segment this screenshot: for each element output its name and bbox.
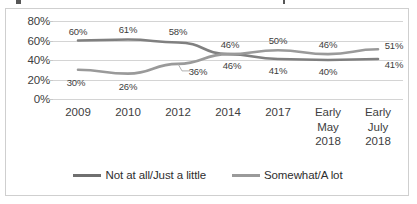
y-axis-label: 80% (28, 15, 50, 27)
data-point-label: 30% (67, 76, 85, 87)
legend-item[interactable]: Somewhat/A lot (232, 169, 343, 181)
data-point-label: 41% (269, 65, 287, 76)
y-axis-label: 40% (28, 54, 50, 66)
data-point-label: 26% (119, 80, 137, 91)
legend-label: Not at all/Just a little (105, 169, 206, 181)
data-point-label: 58% (169, 26, 187, 37)
x-axis-label-line: May (301, 120, 355, 135)
data-point-label: 51% (385, 40, 403, 51)
x-axis-label-line: Early (301, 105, 355, 120)
legend-color-swatch (232, 174, 260, 177)
y-axis-labels: 80%60%40%20%0% (12, 21, 50, 99)
x-axis-label-line: 2009 (51, 105, 105, 120)
x-axis-label-line: 2018 (351, 134, 405, 149)
chart-screenshot: 80%60%40%20%0% 60%61%58%46%41%40%41%30%2… (0, 0, 417, 204)
chart-frame: 80%60%40%20%0% 60%61%58%46%41%40%41%30%2… (5, 8, 409, 196)
y-axis-label: 0% (34, 93, 50, 105)
x-axis-label-line: 2017 (251, 105, 305, 120)
y-axis-label: 20% (28, 74, 50, 86)
x-axis-label-line: Early (351, 105, 405, 120)
legend-item[interactable]: Not at all/Just a little (73, 169, 206, 181)
x-axis-label: 2017 (251, 105, 305, 120)
legend-color-swatch (73, 174, 101, 177)
data-point-label: 46% (221, 39, 239, 50)
data-point-label: 46% (223, 60, 241, 71)
x-axis-label-line: 2014 (201, 105, 255, 120)
data-point-label: 50% (269, 35, 287, 46)
x-axis-label: 2012 (151, 105, 205, 120)
x-axis-label-line: 2012 (151, 105, 205, 120)
x-axis-label-line: 2018 (301, 134, 355, 149)
legend-label: Somewhat/A lot (264, 169, 343, 181)
x-axis-label-line: July (351, 120, 405, 135)
gridline (53, 99, 403, 100)
data-point-label: 61% (119, 23, 137, 34)
y-axis-label: 60% (28, 35, 50, 47)
data-point-label: 40% (319, 66, 337, 77)
data-point-label: 60% (69, 25, 87, 36)
plot-area: 60%61%58%46%41%40%41%30%26%36%46%50%46%5… (53, 21, 403, 99)
x-axis-label: 2014 (201, 105, 255, 120)
x-axis-label: EarlyJuly2018 (351, 105, 405, 149)
cropped-title-remnant (16, 0, 21, 4)
data-point-label: 36% (189, 65, 207, 76)
y-axis-tick (49, 99, 53, 100)
x-axis-labels: 20092010201220142017EarlyMay2018EarlyJul… (53, 105, 403, 163)
x-axis-label: 2010 (101, 105, 155, 120)
x-axis-label: EarlyMay2018 (301, 105, 355, 149)
data-point-label: 41% (385, 59, 403, 70)
chart-legend: Not at all/Just a littleSomewhat/A lot (6, 169, 410, 181)
cropped-title-remnant (283, 0, 285, 4)
data-point-label: 46% (319, 39, 337, 50)
x-axis-label: 2009 (51, 105, 105, 120)
x-axis-label-line: 2010 (101, 105, 155, 120)
